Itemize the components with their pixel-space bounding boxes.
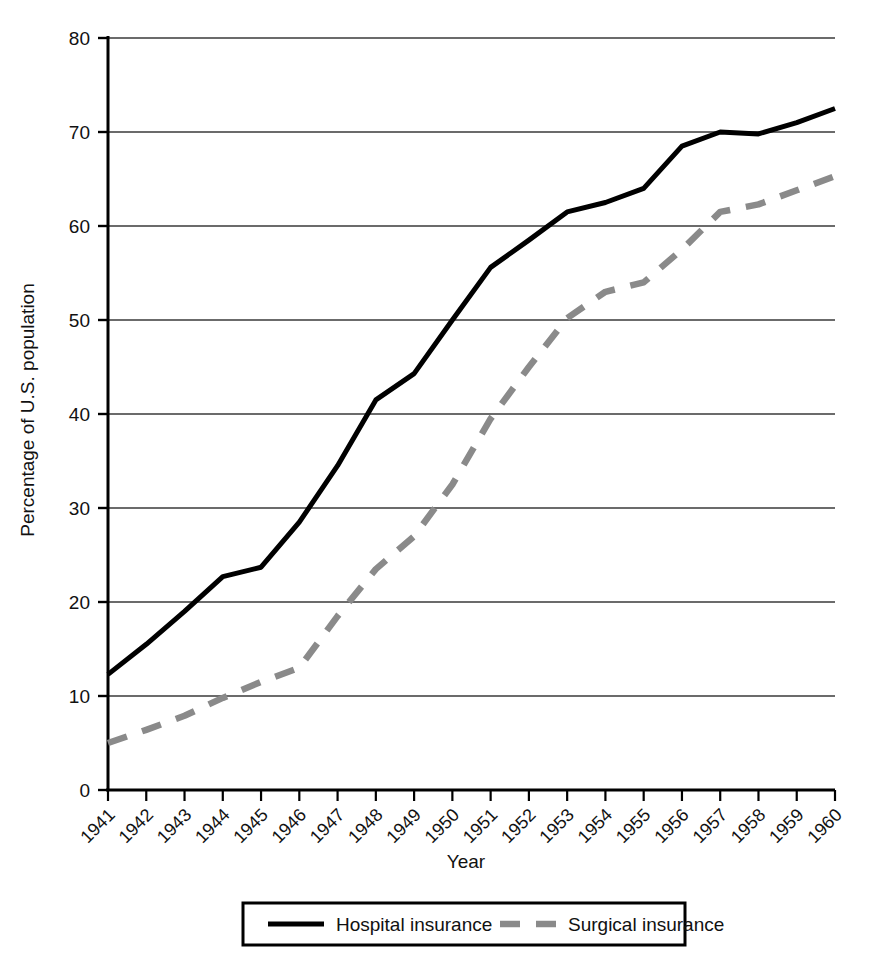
y-axis-title: Percentage of U.S. population (17, 283, 38, 537)
line-chart: 01020304050607080 1941194219431944194519… (0, 0, 878, 979)
y-axis-tick-label: 0 (79, 780, 90, 801)
y-axis-tick-label: 30 (69, 498, 90, 519)
y-axis-tick-label: 40 (69, 404, 90, 425)
legend-label-hospital: Hospital insurance (336, 914, 492, 935)
y-axis-tick-label: 60 (69, 216, 90, 237)
chart-legend: Hospital insuranceSurgical insurance (243, 903, 724, 945)
y-axis-tick-label: 50 (69, 310, 90, 331)
legend-label-surgical: Surgical insurance (568, 914, 724, 935)
y-axis-tick-label: 70 (69, 122, 90, 143)
y-axis-tick-label: 10 (69, 686, 90, 707)
x-axis-title: Year (447, 851, 486, 872)
y-axis-tick-label: 80 (69, 28, 90, 49)
chart-figure: 01020304050607080 1941194219431944194519… (0, 0, 878, 979)
y-axis-tick-label: 20 (69, 592, 90, 613)
